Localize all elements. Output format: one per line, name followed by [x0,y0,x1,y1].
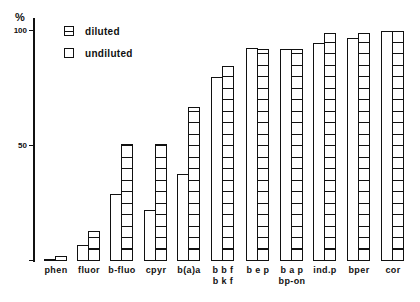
y-tick-100 [29,30,34,31]
x-tick-label-line: bp-on [272,276,312,287]
y-axis [33,18,35,262]
y-tick-0 [29,260,34,261]
plain-swatch-icon [64,48,74,58]
bar-diluted-b-a-a [188,107,200,261]
legend-label-diluted: diluted [85,26,120,37]
legend-item-diluted: diluted [64,20,133,42]
y-tick-50 [29,145,34,146]
bar-diluted-bep [257,49,269,261]
y-tick-label-100: 100 [3,26,27,35]
y-axis-label: % [15,11,25,23]
x-tick-label-cor: cor [373,265,413,276]
bar-diluted-fluor [88,231,100,261]
bar-diluted-cor [392,31,404,261]
x-tick-label-line: b k f [203,276,243,287]
bar-diluted-bbf-bkf [222,66,234,262]
x-tick-label-line: b b f [203,265,243,276]
x-tick-label-line: cor [373,265,413,276]
bar-diluted-b-fluo [121,144,133,261]
x-tick-label-bbf-bkf: b b fb k f [203,265,243,287]
bar-chart: % 100 50 diluted undiluted phenfluorb-fl… [0,0,420,302]
bar-diluted-cpyr [155,144,167,261]
bar-diluted-bper [358,33,370,261]
y-tick-label-50: 50 [3,141,27,150]
bar-diluted-phen [55,256,67,261]
legend-item-undiluted: undiluted [64,42,133,64]
bar-diluted-bap-bp-on [291,49,303,261]
legend: diluted undiluted [64,20,133,64]
bar-diluted-ind-p [324,33,336,261]
legend-label-undiluted: undiluted [85,48,133,59]
hatched-swatch-icon [64,26,74,36]
